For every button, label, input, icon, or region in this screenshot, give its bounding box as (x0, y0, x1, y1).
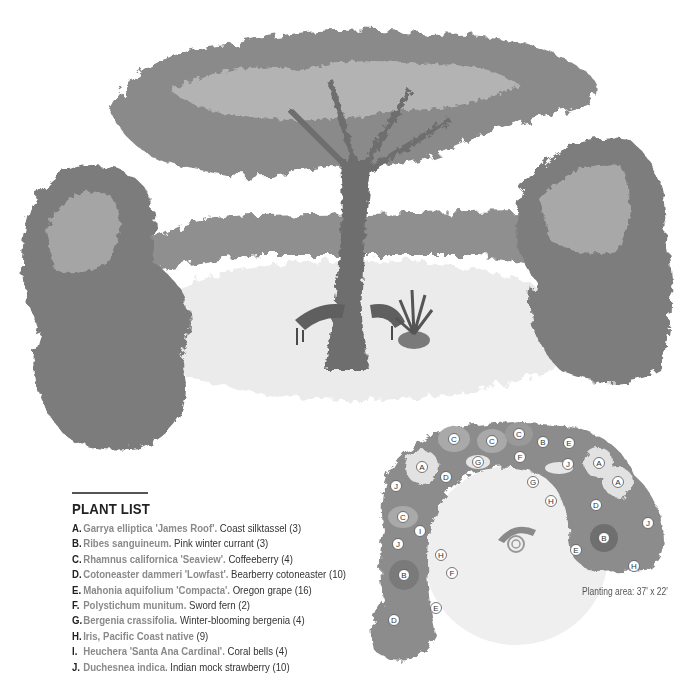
plant-quantity: (2) (238, 599, 250, 611)
plan-label-marker: D (441, 472, 452, 483)
plant-list-item: J.Duchesnea indica. Indian mock strawber… (72, 660, 330, 675)
plan-label-marker: A (417, 462, 428, 473)
plan-label-marker: E (564, 438, 575, 449)
plan-label-marker: H (629, 561, 640, 572)
plan-label-marker: I (415, 526, 426, 537)
plan-label-marker: C (487, 436, 498, 447)
plan-label-marker: D (591, 500, 602, 511)
plant-common-name: Sword fern (189, 599, 236, 611)
plan-label-marker: B (399, 570, 410, 581)
plant-list-item: E.Mahonia aquifolium 'Compacta'. Oregon … (72, 583, 330, 598)
svg-text:F: F (450, 569, 455, 578)
svg-text:C: C (489, 437, 495, 446)
plant-letter: F. (72, 598, 83, 613)
svg-text:G: G (530, 478, 536, 487)
plant-common-name: Coast silktassel (220, 522, 287, 534)
svg-text:H: H (631, 562, 637, 571)
plant-letter: I. (72, 644, 83, 659)
planting-plan-diagram: CCCBEAGFJADGAJHDCIJBJEHFBHED (366, 420, 676, 670)
plant-common-name: Pink winter currant (174, 537, 254, 549)
plant-list-title: PLANT LIST (72, 500, 336, 517)
svg-text:C: C (516, 430, 522, 439)
plant-common-name: Oregon grape (233, 584, 292, 596)
plant-common-name: Coral bells (227, 645, 272, 657)
plant-latin-name: Mahonia aquifolium 'Compacta'. (83, 584, 230, 596)
plant-letter: G. (72, 613, 83, 628)
plant-common-name: Bearberry cotoneaster (231, 568, 326, 580)
plant-list-items: A.Garrya elliptica 'James Roof'. Coast s… (72, 521, 372, 675)
plan-label-marker: E (571, 545, 582, 556)
plant-latin-name: Iris, Pacific Coast native (83, 630, 194, 642)
svg-text:D: D (443, 473, 449, 482)
svg-text:J: J (396, 540, 400, 549)
plant-list-rule (72, 492, 148, 494)
svg-text:D: D (593, 501, 599, 510)
svg-text:J: J (394, 482, 398, 491)
plan-label-marker: J (643, 518, 654, 529)
plant-quantity: (4) (281, 553, 293, 565)
plant-list-item: I.Heuchera 'Santa Ana Cardinal'. Coral b… (72, 644, 330, 659)
plant-list-item: A.Garrya elliptica 'James Roof'. Coast s… (72, 521, 330, 536)
svg-text:A: A (596, 459, 602, 468)
plant-latin-name: Duchesnea indica. (83, 661, 167, 673)
plan-label-marker: H (436, 550, 447, 561)
svg-text:G: G (475, 458, 481, 467)
svg-text:H: H (548, 497, 554, 506)
plant-quantity: (4) (276, 645, 288, 657)
plan-label-marker: J (391, 481, 402, 492)
plant-list-item: D.Cotoneaster dammeri 'Lowfast'. Bearber… (72, 567, 330, 582)
plan-label-marker: C (514, 429, 525, 440)
plan-label-marker: J (563, 459, 574, 470)
plant-quantity: (3) (256, 537, 268, 549)
plan-label-marker: A (594, 458, 605, 469)
planting-area-caption: Planting area: 37' x 22' (582, 586, 668, 597)
plant-common-name: Indian mock strawberry (170, 661, 269, 673)
plant-list-item: B.Ribes sanguineum. Pink winter currant … (72, 536, 330, 551)
plant-quantity: (4) (293, 614, 305, 626)
plant-latin-name: Garrya elliptica 'James Roof'. (83, 522, 217, 534)
svg-text:A: A (615, 478, 621, 487)
plant-letter: E. (72, 583, 83, 598)
plan-label-marker: C (398, 512, 409, 523)
plan-label-marker: B (599, 533, 610, 544)
plant-quantity: (3) (289, 522, 301, 534)
svg-text:C: C (400, 513, 406, 522)
plant-list-item: F.Polystichum munitum. Sword fern (2) (72, 598, 330, 613)
plant-list-item: C.Rhamnus californica 'Seaview'. Coffeeb… (72, 552, 330, 567)
garden-perspective-illustration (0, 0, 700, 460)
plant-latin-name: Cotoneaster dammeri 'Lowfast'. (83, 568, 228, 580)
plant-quantity: (10) (329, 568, 346, 580)
svg-text:F: F (518, 453, 523, 462)
plant-letter: C. (72, 552, 83, 567)
svg-text:J: J (646, 519, 650, 528)
plant-common-name: Winter-blooming bergenia (180, 614, 290, 626)
plant-latin-name: Rhamnus californica 'Seaview'. (83, 553, 226, 565)
plant-letter: J. (72, 660, 83, 675)
plan-label-marker: G (473, 457, 484, 468)
plan-label-marker: D (389, 615, 400, 626)
plant-quantity: (9) (197, 630, 209, 642)
svg-text:A: A (419, 463, 425, 472)
plan-label-marker: A (613, 477, 624, 488)
plant-quantity: (16) (295, 584, 312, 596)
plant-quantity: (10) (272, 661, 289, 673)
plan-label-marker: F (515, 452, 526, 463)
plant-letter: D. (72, 567, 83, 582)
plant-list-item: H.Iris, Pacific Coast native (9) (72, 629, 330, 644)
plant-list-item: G.Bergenia crassifolia. Winter-blooming … (72, 613, 330, 628)
plant-list: PLANT LIST A.Garrya elliptica 'James Roo… (72, 492, 372, 675)
svg-text:J: J (566, 460, 570, 469)
plant-latin-name: Ribes sanguineum. (83, 537, 171, 549)
plan-label-marker: J (393, 539, 404, 550)
plant-latin-name: Polystichum munitum. (83, 599, 186, 611)
plant-letter: A. (72, 521, 83, 536)
plan-label-marker: E (431, 603, 442, 614)
svg-text:E: E (566, 439, 571, 448)
plan-label-marker: G (528, 477, 539, 488)
svg-text:C: C (451, 435, 457, 444)
svg-text:E: E (573, 546, 578, 555)
plan-label-marker: F (447, 568, 458, 579)
svg-text:B: B (401, 571, 406, 580)
plant-letter: H. (72, 629, 83, 644)
svg-text:B: B (601, 534, 606, 543)
